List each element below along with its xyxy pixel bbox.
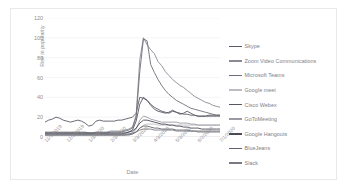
legend-item[interactable]: Google Hangouts — [229, 127, 344, 142]
y-tick-label: 20 — [19, 114, 43, 120]
legend-item[interactable]: Slack — [229, 156, 344, 171]
x-axis-title: Date — [45, 169, 220, 175]
legend-color-swatch — [229, 75, 242, 77]
legend-label: Zoom Video Communications — [245, 58, 317, 64]
legend-item[interactable]: GoToMeeting — [229, 112, 344, 127]
chart-frame: Rise in popularity 120 100 80 60 40 20 0… — [10, 8, 337, 180]
gridlines — [45, 18, 220, 137]
legend-item[interactable]: BlueJeans — [229, 141, 344, 156]
y-tick-label: 100 — [19, 35, 43, 41]
legend-label: Cisco Webex — [245, 102, 277, 108]
y-tick-label: 120 — [19, 15, 43, 21]
legend-item[interactable]: Microsoft Teams — [229, 68, 344, 83]
legend-label: Microsoft Teams — [245, 72, 285, 78]
legend-color-swatch — [229, 46, 242, 48]
legend-item[interactable]: Cisco Webex — [229, 97, 344, 112]
legend-color-swatch — [229, 133, 242, 135]
series-lines — [45, 38, 220, 135]
series-line — [45, 38, 220, 133]
y-tick-label: 40 — [19, 94, 43, 100]
plot-svg — [45, 18, 220, 137]
legend-label: BlueJeans — [245, 145, 271, 151]
x-axis-tick-labels: 11/3/201912/3/20191/3/20202/3/20203/3/20… — [45, 139, 220, 171]
legend-label: Google Hangouts — [245, 131, 288, 137]
legend-color-swatch — [229, 118, 242, 120]
y-tick-label: 0 — [19, 134, 43, 140]
chart-legend: SkypeZoom Video CommunicationsMicrosoft … — [229, 39, 344, 170]
legend-color-swatch — [229, 104, 242, 106]
legend-label: Slack — [245, 160, 258, 166]
legend-color-swatch — [229, 148, 242, 150]
y-axis-tick-labels: 120 100 80 60 40 20 0 — [15, 18, 43, 137]
plot-area — [45, 18, 220, 137]
legend-color-swatch — [229, 89, 242, 91]
legend-item[interactable]: Zoom Video Communications — [229, 54, 344, 69]
legend-label: GoToMeeting — [245, 116, 278, 122]
legend-color-swatch — [229, 162, 242, 164]
legend-label: Skype — [245, 43, 260, 49]
series-line — [45, 39, 220, 133]
legend-label: Google meet — [245, 87, 276, 93]
series-line — [45, 97, 220, 126]
y-tick-label: 80 — [19, 55, 43, 61]
legend-item[interactable]: Google meet — [229, 83, 344, 98]
y-tick-label: 60 — [19, 75, 43, 81]
legend-item[interactable]: Skype — [229, 39, 344, 54]
legend-color-swatch — [229, 60, 242, 62]
